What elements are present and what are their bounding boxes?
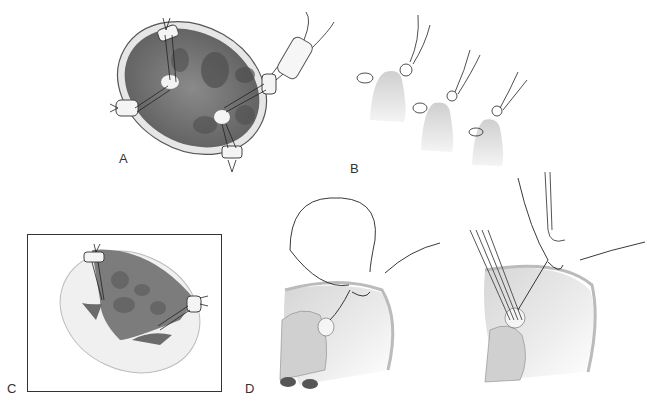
panel-label-c: C — [7, 381, 16, 396]
panel-d-left-drawing — [280, 198, 440, 389]
panel-a-drawing — [93, 0, 334, 181]
panel-d-right-drawing — [470, 172, 645, 382]
panel-c-frame — [27, 234, 222, 392]
panel-label-d: D — [245, 381, 254, 396]
panel-b-drawing — [357, 15, 527, 166]
panel-label-b: B — [350, 161, 359, 176]
panel-label-a: A — [119, 151, 128, 166]
